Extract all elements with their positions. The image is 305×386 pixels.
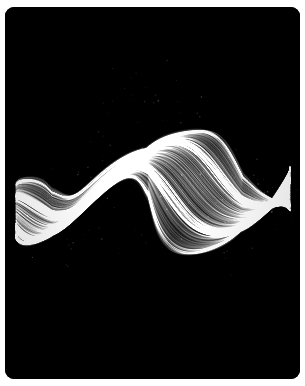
- generative-wave-canvas: [5, 7, 300, 379]
- artwork-panel: [5, 7, 300, 379]
